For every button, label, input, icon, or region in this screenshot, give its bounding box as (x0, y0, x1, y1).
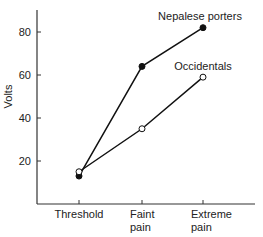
open-circle-marker-icon (200, 74, 206, 80)
filled-circle-marker-icon (200, 25, 206, 31)
x-category-label: Faint (130, 208, 154, 220)
y-tick-label: 80 (19, 26, 31, 38)
line-chart: 20406080VoltsThresholdFaintpainExtremepa… (0, 0, 263, 237)
series-label: Occidentals (174, 60, 232, 72)
y-tick-label: 20 (19, 155, 31, 167)
series-label: Nepalese porters (158, 10, 242, 22)
open-circle-marker-icon (139, 126, 145, 132)
y-tick-label: 40 (19, 112, 31, 124)
x-category-label: pain (191, 221, 212, 233)
chart-svg: 20406080VoltsThresholdFaintpainExtremepa… (0, 0, 263, 237)
filled-circle-marker-icon (139, 63, 145, 69)
open-circle-marker-icon (76, 169, 82, 175)
y-tick-label: 60 (19, 69, 31, 81)
x-category-label: Threshold (55, 208, 104, 220)
y-axis-label: Volts (2, 84, 14, 108)
series-line-occidentals (79, 77, 203, 172)
series-line-nepalese-porters (79, 28, 203, 176)
x-category-label: Extreme (191, 208, 232, 220)
x-category-label: pain (130, 221, 151, 233)
